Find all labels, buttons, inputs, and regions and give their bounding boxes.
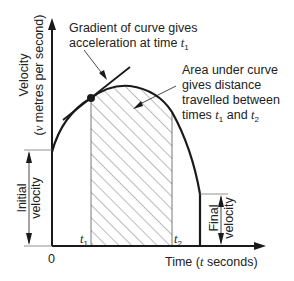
t1-marker: t1 bbox=[80, 232, 88, 248]
gradient-leader bbox=[84, 50, 107, 80]
svg-text:Final: Final bbox=[207, 204, 221, 231]
y-axis-label: Velocity bbox=[17, 53, 31, 97]
svg-text:times t1 and t2: times t1 and t2 bbox=[182, 108, 260, 124]
svg-text:travelled between: travelled between bbox=[182, 93, 280, 107]
y-axis bbox=[48, 18, 56, 246]
svg-text:Velocity: Velocity bbox=[17, 53, 31, 97]
final-velocity-label: Final bbox=[207, 204, 221, 231]
svg-text:gives distance: gives distance bbox=[182, 78, 261, 92]
svg-text:velocity: velocity bbox=[222, 196, 236, 238]
y-axis-unit-label: (v metres per second) bbox=[32, 15, 46, 136]
area-annotation: Area under curve gives distance travelle… bbox=[182, 63, 280, 124]
svg-text:(v metres per second): (v metres per second) bbox=[32, 15, 46, 136]
x-axis-label: Time (t seconds) bbox=[165, 255, 258, 269]
final-velocity-label-line2: velocity bbox=[222, 196, 236, 238]
gradient-annotation: Gradient of curve gives acceleration at … bbox=[69, 21, 198, 52]
svg-text:Area under curve: Area under curve bbox=[182, 63, 278, 77]
svg-text:Initial: Initial bbox=[15, 183, 29, 212]
tangent-point bbox=[87, 94, 95, 102]
hatched-area bbox=[91, 86, 172, 246]
initial-velocity-label: Initial bbox=[15, 183, 29, 212]
svg-text:Gradient of curve gives: Gradient of curve gives bbox=[69, 21, 198, 35]
origin-label: 0 bbox=[48, 252, 55, 266]
t2-marker: t2 bbox=[174, 232, 182, 248]
initial-velocity-label-line2: velocity bbox=[29, 176, 43, 218]
velocity-time-diagram: Velocity (v metres per second) Initial v… bbox=[0, 0, 294, 281]
svg-text:velocity: velocity bbox=[29, 176, 43, 218]
svg-text:acceleration at time t1: acceleration at time t1 bbox=[69, 36, 189, 52]
